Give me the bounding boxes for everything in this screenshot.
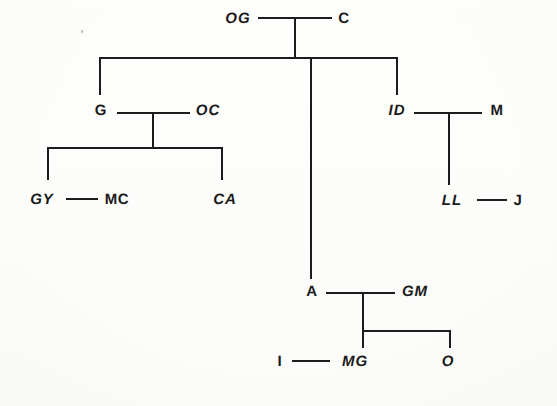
node-og: OG: [225, 11, 250, 26]
node-oc: OC: [196, 103, 221, 118]
node-id: ID: [389, 103, 406, 118]
node-c: C: [338, 11, 349, 26]
node-o: O: [442, 354, 455, 369]
child-drop-o: [449, 330, 451, 348]
node-ca: CA: [213, 192, 237, 207]
node-a: A: [306, 284, 317, 299]
sibling-drop-id: [396, 57, 398, 95]
descent-stem-g-oc: [152, 113, 154, 148]
node-ll: LL: [442, 193, 462, 208]
node-j: J: [514, 193, 523, 208]
descent-stem-id-m: [448, 113, 450, 185]
union-line-a-gm: [326, 292, 395, 294]
child-drop-ca: [221, 147, 223, 180]
sibling-drop-a: [310, 57, 312, 279]
sibship-bar-g-oc: [47, 147, 223, 149]
node-i: I: [278, 354, 283, 369]
node-m: M: [490, 103, 503, 118]
sibling-drop-g: [99, 57, 101, 95]
node-mg: MG: [342, 354, 368, 369]
descent-stem-a-gm: [362, 293, 364, 348]
descent-stem-og-c: [294, 18, 296, 58]
sibship-bar-a-gm: [362, 330, 451, 332]
union-line-gy-mc: [66, 198, 98, 200]
pedigree-chart: OG C G OC GY MC CA ID M LL J A GM I MG O: [0, 0, 557, 406]
node-mc: MC: [105, 192, 130, 207]
sibship-bar-generation-2: [99, 57, 398, 59]
node-g: G: [95, 103, 107, 118]
scan-speck: [81, 30, 83, 33]
paper-texture: [0, 0, 557, 406]
union-line-ll-j: [477, 199, 507, 201]
node-gy: GY: [30, 192, 54, 207]
union-line-i-mg: [292, 360, 330, 362]
node-gm: GM: [402, 284, 428, 299]
child-drop-gy: [47, 147, 49, 180]
